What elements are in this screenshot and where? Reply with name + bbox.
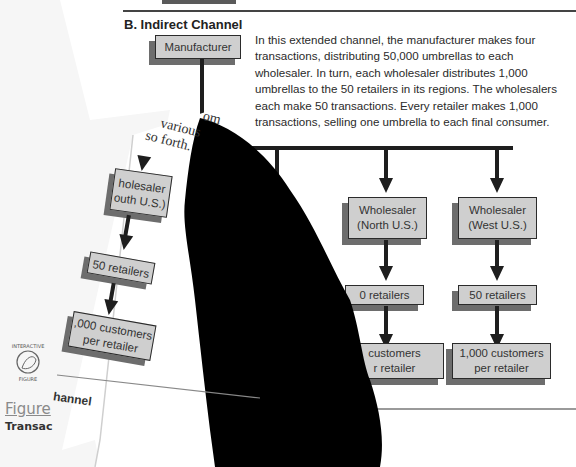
arrow-down-icon (117, 234, 133, 251)
curled-wholesaler-node: holesaler outh U.S.) (109, 168, 172, 218)
arrow-down-icon (102, 299, 118, 316)
black-shadow (184, 118, 382, 467)
badge-top-text: INTERACTIVE (12, 343, 45, 349)
figure-link[interactable]: Figure (5, 400, 51, 418)
interactive-figure-badge[interactable]: INTERACTIVE FIGURE (6, 340, 50, 384)
badge-bottom-text: FIGURE (19, 376, 38, 382)
arrow-down-icon (135, 155, 151, 172)
figure-caption: Transac (5, 420, 52, 433)
